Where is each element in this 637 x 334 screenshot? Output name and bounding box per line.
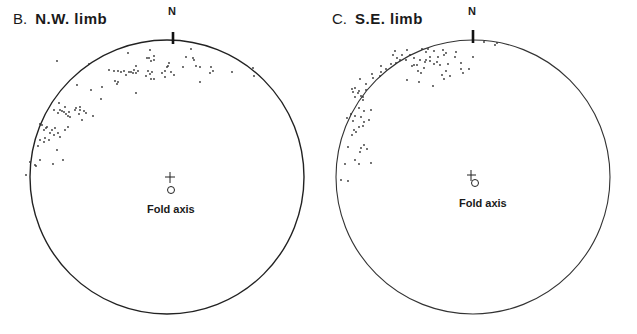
- pole-point: [75, 107, 77, 109]
- pole-point: [44, 137, 46, 139]
- pole-point: [64, 106, 66, 108]
- pole-point: [128, 71, 130, 73]
- pole-point: [149, 73, 151, 75]
- pole-point: [190, 48, 192, 50]
- pole-point: [114, 80, 116, 82]
- pole-point: [396, 57, 398, 59]
- pole-point: [53, 109, 55, 111]
- pole-point: [61, 110, 63, 112]
- pole-point: [406, 49, 408, 51]
- pole-point: [117, 70, 119, 72]
- pole-point: [170, 71, 172, 73]
- stereonet: [0, 0, 318, 334]
- pole-point: [359, 151, 361, 153]
- pole-point: [173, 74, 175, 76]
- pole-point: [483, 41, 485, 43]
- pole-point: [43, 129, 45, 131]
- stereonet: [318, 0, 637, 334]
- pole-point: [63, 111, 65, 113]
- pole-point: [460, 68, 462, 70]
- pole-point: [354, 159, 356, 161]
- pole-point: [413, 57, 415, 59]
- north-label: N: [168, 5, 176, 17]
- pole-point: [59, 109, 61, 111]
- pole-point: [101, 86, 103, 88]
- pole-point: [419, 59, 421, 61]
- pole-point: [57, 132, 59, 134]
- pole-point: [54, 127, 56, 129]
- pole-point: [62, 159, 64, 161]
- pole-point: [449, 75, 451, 77]
- pole-point: [358, 126, 360, 128]
- pole-point: [132, 72, 134, 74]
- pole-points: [25, 48, 255, 176]
- pole-point: [360, 147, 362, 149]
- pole-point: [417, 70, 419, 72]
- pole-point: [347, 180, 349, 182]
- pole-point: [123, 70, 125, 72]
- pole-point: [355, 131, 357, 133]
- pole-point: [423, 67, 425, 69]
- pole-point: [151, 71, 153, 73]
- pole-point: [358, 163, 360, 165]
- pole-point: [421, 48, 423, 50]
- pole-point: [340, 179, 342, 181]
- pole-point: [90, 89, 92, 91]
- pole-point: [358, 107, 360, 109]
- primitive-circle: [336, 40, 610, 314]
- pole-point: [416, 64, 418, 66]
- pole-point: [29, 161, 31, 163]
- pole-point: [365, 89, 367, 91]
- pole-point: [350, 113, 352, 115]
- pole-point: [406, 79, 408, 81]
- pole-point: [433, 50, 435, 52]
- pole-point: [231, 71, 233, 73]
- pole-point: [365, 83, 367, 85]
- pole-point: [56, 60, 58, 62]
- pole-point: [150, 78, 152, 80]
- pole-point: [108, 69, 110, 71]
- pole-point: [182, 66, 184, 68]
- pole-point: [372, 77, 374, 79]
- pole-point: [346, 117, 348, 119]
- pole-point: [385, 68, 387, 70]
- pole-point: [429, 56, 431, 58]
- pole-point: [353, 129, 355, 131]
- pole-point: [85, 112, 87, 114]
- pole-point: [147, 70, 149, 72]
- pole-point: [52, 163, 54, 165]
- pole-point: [447, 63, 449, 65]
- pole-point: [133, 69, 135, 71]
- pole-point: [145, 75, 147, 77]
- pole-point: [441, 74, 443, 76]
- pole-point: [64, 129, 66, 131]
- pole-point: [212, 70, 214, 72]
- pole-point: [352, 120, 354, 122]
- pole-point: [150, 60, 152, 62]
- pole-point: [41, 124, 43, 126]
- pole-point: [454, 56, 456, 58]
- pole-point: [462, 72, 464, 74]
- pole-point: [210, 66, 212, 68]
- pole-point: [46, 126, 48, 128]
- pole-point: [411, 65, 413, 67]
- pole-point: [390, 63, 392, 65]
- pole-point: [380, 65, 382, 67]
- pole-point: [113, 70, 115, 72]
- pole-point: [425, 59, 427, 61]
- pole-point: [362, 125, 364, 127]
- pole-point: [366, 148, 368, 150]
- pole-point: [425, 51, 427, 53]
- pole-point: [100, 98, 102, 100]
- pole-point: [148, 57, 150, 59]
- pole-point: [368, 119, 370, 121]
- pole-point: [354, 115, 356, 117]
- pole-point: [437, 56, 439, 58]
- pole-point: [358, 90, 360, 92]
- pole-point: [168, 62, 170, 64]
- pole-point: [74, 109, 76, 111]
- pole-point: [357, 92, 359, 94]
- pole-point: [363, 144, 365, 146]
- pole-point: [409, 54, 411, 56]
- pole-point: [424, 61, 426, 63]
